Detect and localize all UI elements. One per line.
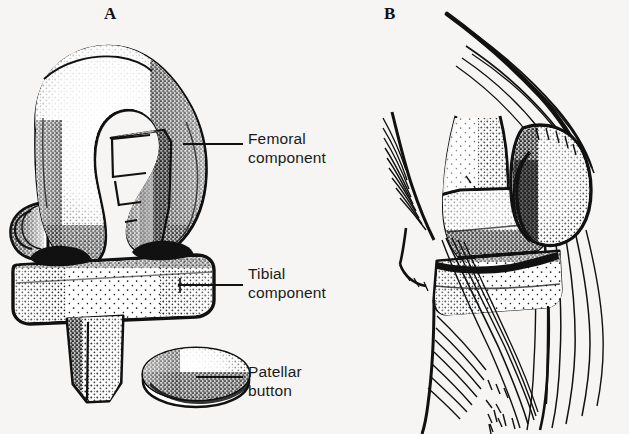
knee-arthroplasty-figure: A B Femoral component Tibial component P… (0, 0, 629, 434)
panel-letter-b: B (384, 4, 396, 24)
callout-femoral-line2: component (248, 148, 326, 167)
panel-letter-a: A (104, 4, 116, 24)
callout-femoral-line1: Femoral (248, 130, 306, 147)
callout-tibial-line2: component (248, 283, 326, 302)
callout-patellar-line2: button (248, 381, 302, 400)
illustration-canvas (0, 0, 629, 434)
callout-femoral-component: Femoral component (248, 129, 326, 167)
callout-patellar-line1: Patellar (248, 363, 302, 380)
panel-a-drawing (8, 40, 252, 408)
callout-tibial-line1: Tibial (248, 265, 285, 282)
callout-tibial-component: Tibial component (248, 264, 326, 302)
panel-b-drawing (383, 14, 603, 434)
posterior-femoral-hatching (383, 112, 434, 291)
hatch-lines (383, 118, 426, 230)
tibia-hatch-lines (428, 316, 486, 419)
callout-patellar-button: Patellar button (248, 362, 302, 400)
femoral-component-shape (30, 40, 215, 275)
tibial-component-stem (62, 312, 128, 408)
